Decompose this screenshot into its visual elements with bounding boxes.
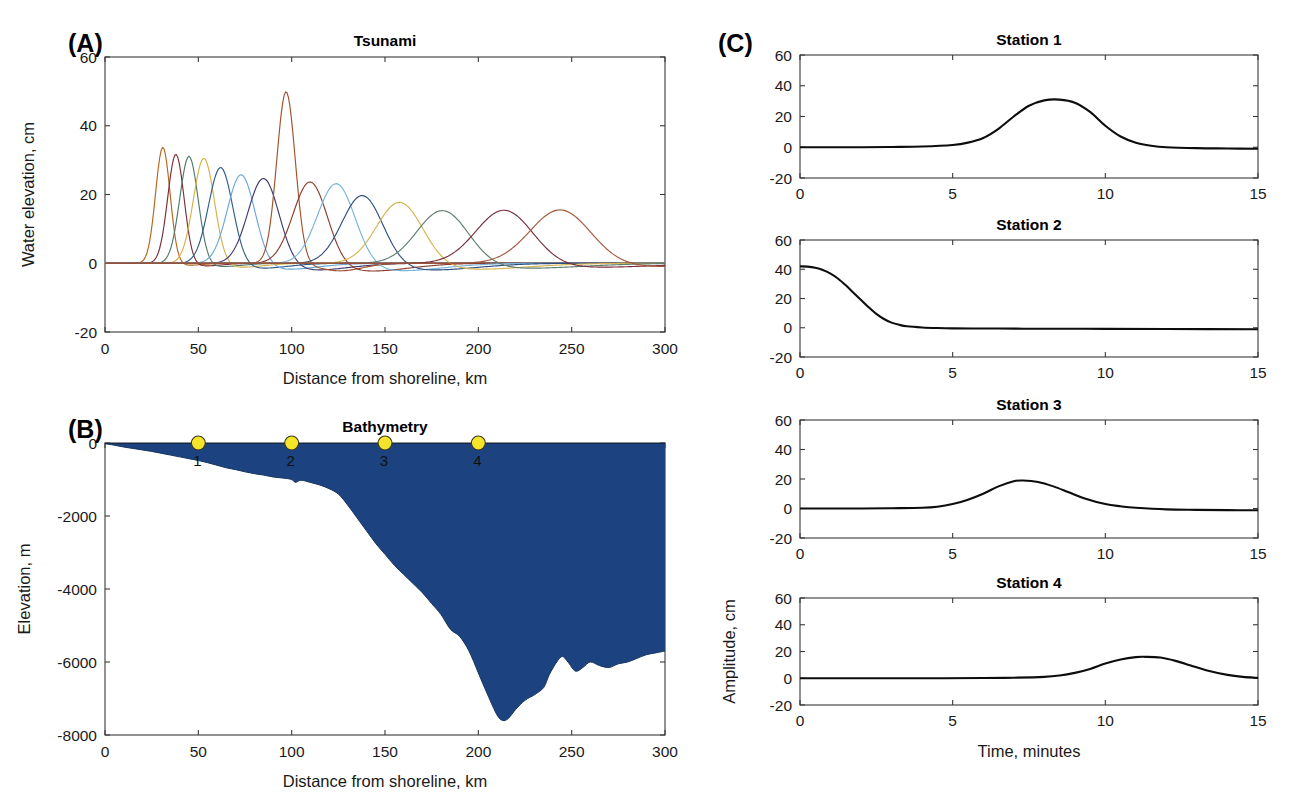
wave-snapshot-t2	[105, 155, 665, 266]
y-tick-label: -8000	[57, 727, 97, 744]
y-tick-label: -20	[770, 697, 793, 714]
station-title-2: Station 2	[996, 216, 1061, 233]
station-waveform-2	[800, 266, 1258, 329]
x-tick-label: 10	[1097, 545, 1115, 562]
y-tick-label: -20	[770, 349, 793, 366]
panel-c-xlabel: Time, minutes	[978, 742, 1081, 760]
y-tick-label: 0	[783, 670, 792, 687]
station-marker-label-4: 4	[473, 452, 481, 469]
y-tick-label: -6000	[57, 654, 97, 671]
station-trace-group-3	[800, 480, 1258, 510]
x-tick-label: 150	[372, 743, 398, 760]
panel-a: (A)Tsunami050100150200250300-200204060Di…	[19, 29, 678, 387]
plot-frame	[800, 55, 1258, 178]
x-tick-label: 150	[372, 340, 398, 357]
plot-frame	[800, 598, 1258, 705]
x-tick-label: 5	[948, 712, 957, 729]
station-trace-group-2	[800, 266, 1258, 329]
x-tick-label: 100	[279, 340, 305, 357]
station-marker-4[interactable]	[471, 436, 485, 450]
station-title-3: Station 3	[996, 396, 1062, 413]
plot-frame	[800, 240, 1258, 357]
panel-b-ocean	[105, 443, 665, 721]
y-tick-label: 60	[775, 47, 793, 64]
station-title-1: Station 1	[996, 31, 1062, 48]
panel-c-subplot-2: Station 2051015-200204060	[770, 216, 1267, 381]
panel-b-title: Bathymetry	[342, 418, 428, 435]
x-tick-label: 50	[190, 340, 208, 357]
x-tick-label: 50	[190, 743, 208, 760]
y-tick-label: 20	[80, 186, 98, 203]
panel-c-subplot-4: Station 4051015-200204060	[770, 574, 1267, 729]
y-tick-label: 40	[80, 117, 98, 134]
x-tick-label: 0	[796, 185, 805, 202]
x-tick-label: 200	[465, 743, 491, 760]
x-tick-label: 15	[1249, 545, 1266, 562]
panel-c-subplot-1: Station 1051015-200204060	[770, 31, 1267, 202]
y-tick-label: 40	[775, 261, 793, 278]
station-marker-1[interactable]	[191, 436, 205, 450]
panel-c-subplot-3: Station 3051015-200204060	[770, 396, 1267, 562]
x-tick-label: 15	[1249, 364, 1266, 381]
y-tick-label: 40	[775, 616, 793, 633]
x-tick-label: 100	[279, 743, 305, 760]
y-tick-label: 0	[783, 139, 792, 156]
x-tick-label: 15	[1249, 185, 1266, 202]
figure-root: (A)Tsunami050100150200250300-200204060Di…	[0, 0, 1303, 800]
panel-b-xlabel: Distance from shoreline, km	[283, 772, 488, 790]
wave-snapshot-t8	[105, 92, 665, 271]
station-waveform-3	[800, 480, 1258, 510]
y-tick-label: -20	[75, 324, 98, 341]
y-tick-label: -2000	[57, 508, 97, 525]
station-title-4: Station 4	[996, 574, 1062, 591]
wave-snapshot-t1	[105, 147, 665, 265]
station-marker-label-1: 1	[193, 452, 201, 469]
x-tick-label: 0	[101, 340, 110, 357]
station-trace-group-1	[800, 99, 1258, 148]
y-tick-label: 20	[775, 108, 793, 125]
x-tick-label: 5	[948, 364, 957, 381]
wave-snapshot-t13	[105, 211, 665, 269]
x-tick-label: 200	[465, 340, 491, 357]
x-tick-label: 0	[796, 712, 805, 729]
y-tick-label: -4000	[57, 581, 97, 598]
wave-snapshot-t3	[105, 156, 665, 266]
plot-frame	[105, 57, 665, 332]
panel-a-waves	[105, 92, 665, 271]
y-tick-label: 0	[783, 319, 792, 336]
y-tick-label: 40	[775, 77, 793, 94]
panel-b-letter: (B)	[68, 415, 103, 443]
panel-b: (B)Bathymetry050100150200250300-8000-600…	[15, 415, 678, 790]
x-tick-label: 0	[101, 743, 110, 760]
x-tick-label: 10	[1097, 364, 1115, 381]
panel-c: (C)Station 1051015-200204060Station 2051…	[718, 29, 1267, 760]
y-tick-label: 60	[775, 590, 793, 607]
x-tick-label: 0	[796, 364, 805, 381]
wave-snapshot-t15	[105, 210, 665, 267]
panel-c-ylabel: Amplitude, cm	[720, 599, 738, 704]
y-tick-label: 60	[775, 412, 793, 429]
station-waveform-1	[800, 99, 1258, 148]
panel-b-ylabel: Elevation, m	[15, 544, 33, 635]
x-tick-label: 300	[652, 743, 678, 760]
x-tick-label: 5	[948, 185, 957, 202]
panel-a-ylabel: Water elevation, cm	[19, 122, 37, 267]
x-tick-label: 5	[948, 545, 957, 562]
y-tick-label: 20	[775, 471, 793, 488]
panel-c-letter: (C)	[718, 29, 753, 57]
y-tick-label: 60	[775, 232, 793, 249]
y-tick-label: 0	[88, 435, 97, 452]
station-marker-2[interactable]	[285, 436, 299, 450]
y-tick-label: 20	[775, 290, 793, 307]
x-tick-label: 10	[1097, 185, 1115, 202]
y-tick-label: -20	[770, 170, 793, 187]
y-tick-label: 0	[783, 500, 792, 517]
station-trace-group-4	[800, 657, 1258, 678]
wave-snapshot-t5	[105, 168, 665, 268]
panel-a-xlabel: Distance from shoreline, km	[283, 369, 488, 387]
wave-snapshot-t14	[105, 210, 665, 267]
x-tick-label: 250	[559, 340, 585, 357]
station-marker-3[interactable]	[378, 436, 392, 450]
station-waveform-4	[800, 657, 1258, 678]
station-marker-label-2: 2	[286, 452, 294, 469]
